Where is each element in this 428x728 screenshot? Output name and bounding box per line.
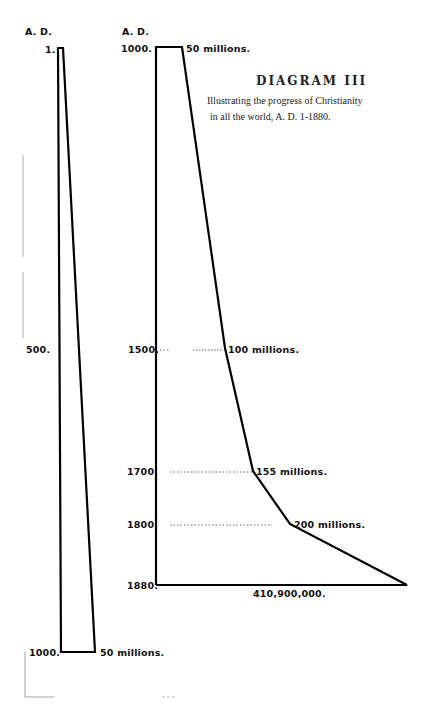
right-value-1800: 200 millions. <box>294 519 365 530</box>
right-year-1880: 1880. <box>127 580 158 591</box>
right-year-1000: 1000. <box>121 43 152 54</box>
right-year-1500: 1500. <box>128 344 159 355</box>
diagram-title: DIAGRAM III <box>256 74 367 88</box>
right-growth-shape <box>156 47 407 585</box>
right-year-1800: 1800. <box>127 519 158 530</box>
right-value-1700: 155 millions. <box>256 466 327 477</box>
right-era-label: A. D. <box>122 26 149 37</box>
left-year-1000: 1000. <box>29 647 60 658</box>
right-value-1500: 100 millions. <box>228 344 299 355</box>
left-year-1: 1. <box>45 44 56 55</box>
left-value-1000: 50 millions. <box>100 647 164 658</box>
left-year-500: 500. <box>26 344 50 355</box>
diagram-canvas <box>0 0 428 728</box>
right-value-1000: 50 millions. <box>186 43 250 54</box>
left-era-label: A. D. <box>25 26 52 37</box>
right-year-1700: 1700. <box>127 466 158 477</box>
left-growth-shape <box>58 48 95 652</box>
right-value-1880: 410,900,000. <box>253 588 326 599</box>
diagram-subtitle-line2: in all the world, A. D. 1-1880. <box>210 111 331 122</box>
diagram-subtitle-line1: Illustrating the progress of Christianit… <box>207 95 363 106</box>
